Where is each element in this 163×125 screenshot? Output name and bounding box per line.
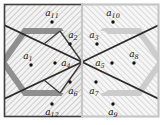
dot-a12 [50,102,53,105]
dot-a7 [94,80,97,83]
partition-svg [0,0,163,125]
dot-a1 [29,63,32,66]
dot-a9 [111,102,114,105]
dot-a3 [95,42,98,45]
dot-a4 [53,61,56,64]
dot-a2 [68,42,71,45]
diagram-canvas: a1 a2 a3 a4 a5 a6 a7 a8 a9 a10 a11 a12 [0,0,163,125]
dot-a6 [68,80,71,83]
dot-a11 [50,20,53,23]
dot-a5 [110,61,113,64]
dot-a8 [132,61,135,64]
dot-a10 [111,20,114,23]
